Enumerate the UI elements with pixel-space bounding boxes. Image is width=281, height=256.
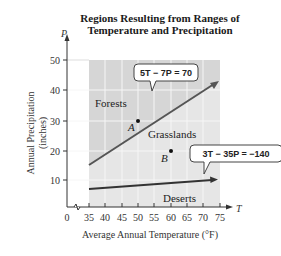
region-label-deserts: Deserts [163,192,196,204]
y-tick-label: 10 [50,175,60,186]
x-tick-label: 55 [149,212,159,223]
x-tick-label: 45 [117,212,127,223]
x-tick-label: 75 [215,212,225,223]
point-a [136,119,140,123]
x-tick-label: 0 [65,212,70,223]
x-axis-arrow-icon [226,205,233,210]
equation-label-1: 5T − 7P = 70 [140,68,192,78]
x-tick-label: 50 [133,212,143,223]
x-tick-label: 65 [182,212,192,223]
y-axis-title-line2: (inches) [37,117,49,149]
x-axis-variable: T [236,203,243,214]
region-label-grasslands: Grasslands [148,128,196,140]
y-axis-title-line1: Annual Precipitation [25,91,36,174]
x-tick-label: 70 [198,212,208,223]
y-tick-label: 20 [50,146,60,157]
point-b-label: B [161,152,168,164]
x-axis-title: Average Annual Temperature (°F) [82,229,218,241]
x-tick-label: 35 [84,212,94,223]
x-tick-label: 60 [166,212,176,223]
y-tick-label: 40 [50,85,60,96]
chart-plot: 50 40 30 20 10 0 35 40 45 50 55 60 65 70… [0,0,281,256]
y-axis-variable: P [60,28,67,39]
axis-break-icon [74,204,80,210]
x-tick-label: 40 [100,212,110,223]
point-b [169,149,173,153]
y-tick-label: 50 [50,55,60,66]
region-label-forests: Forests [95,97,127,109]
equation-label-2: 3T − 35P = −140 [202,149,269,159]
y-tick-label: 30 [50,116,60,127]
point-a-label: A [127,121,135,133]
